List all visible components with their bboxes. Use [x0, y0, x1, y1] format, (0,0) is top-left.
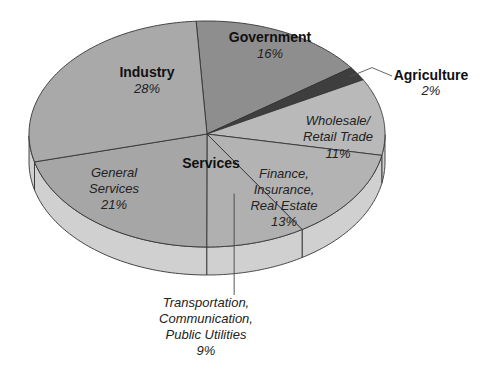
- value-transport: 9%: [197, 343, 216, 358]
- label-agriculture: Agriculture: [394, 67, 469, 83]
- label-transport-line2: Communication,: [159, 311, 253, 326]
- value-wholesale: 11%: [325, 146, 350, 161]
- value-finance: 13%: [271, 214, 297, 229]
- pie-chart: Industry 28% Government 16% Agriculture …: [0, 0, 495, 372]
- label-finance-line2: Insurance,: [254, 182, 315, 197]
- label-finance-line3: Real Estate: [250, 198, 317, 213]
- label-transport-line3: Public Utilities: [166, 327, 247, 342]
- label-wholesale-line2: Retail Trade: [303, 129, 373, 144]
- value-agriculture: 2%: [421, 83, 441, 98]
- label-general-services-line2: Services: [89, 181, 139, 196]
- label-industry: Industry: [119, 64, 174, 80]
- value-general-services: 21%: [100, 197, 127, 212]
- label-wholesale-line1: Wholesale/: [306, 113, 372, 128]
- label-transport-line1: Transportation,: [163, 295, 249, 310]
- label-finance-line1: Finance,: [259, 166, 309, 181]
- value-industry: 28%: [133, 81, 160, 96]
- label-government: Government: [229, 29, 312, 45]
- label-general-services-line1: General: [91, 165, 138, 180]
- value-government: 16%: [257, 46, 283, 61]
- label-services-group: Services: [182, 155, 240, 171]
